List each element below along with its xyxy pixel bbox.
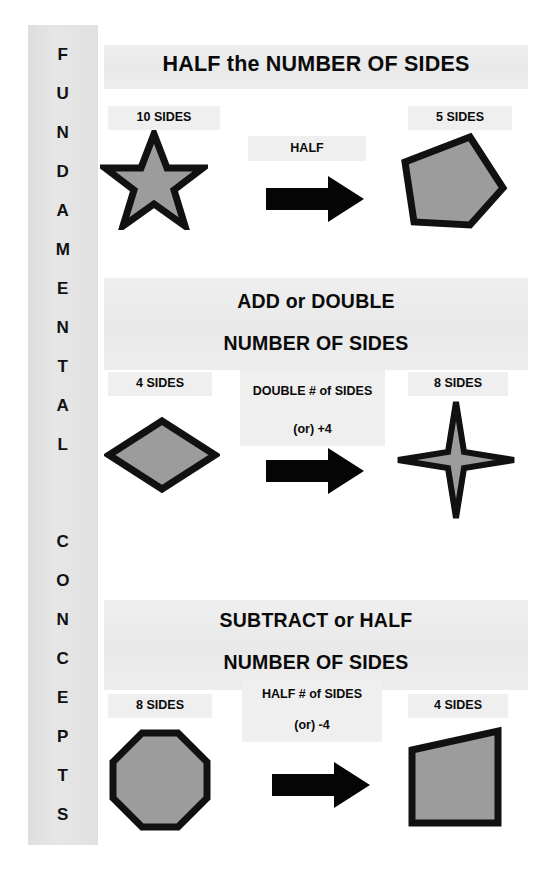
section-2-left-label: 4 SIDES: [108, 372, 212, 396]
shape-ten-point-star: [100, 130, 208, 230]
section-2-heading-line-1: ADD or DOUBLE: [104, 290, 528, 313]
section-2-operation-sub: (or) +4: [240, 414, 385, 446]
section-3-operation-label: HALF # of SIDES: [242, 680, 382, 710]
section-3-left-label: 8 SIDES: [108, 694, 212, 718]
section-2-operation-label: DOUBLE # of SIDES: [240, 370, 385, 414]
section-2-heading-line-2: NUMBER OF SIDES: [104, 332, 528, 355]
sidebar-letter: N: [57, 124, 70, 163]
right-arrow-icon: [272, 762, 370, 808]
sidebar-letter: L: [58, 436, 69, 475]
sidebar-letter: A: [57, 397, 70, 436]
right-arrow-icon: [266, 176, 364, 222]
section-3-heading-line-2: NUMBER OF SIDES: [104, 651, 528, 674]
shape-four-point-star: [394, 398, 518, 522]
sidebar-letter: T: [58, 358, 69, 397]
sidebar-letter: E: [57, 689, 69, 728]
shape-rhombus: [104, 416, 220, 494]
right-arrow-icon: [266, 448, 364, 494]
sidebar-letter: U: [57, 85, 70, 124]
shape-octagon: [108, 728, 212, 832]
sidebar-vertical-title: F U N D A M E N T A L C O N C E P T S: [28, 25, 98, 845]
shape-trapezoid: [406, 726, 508, 830]
section-3-operation-sub: (or) -4: [242, 710, 382, 742]
sidebar-letter: T: [58, 767, 69, 806]
sidebar-letter: D: [57, 163, 70, 202]
section-2-right-label: 8 SIDES: [408, 372, 508, 396]
section-1-heading: HALF the NUMBER OF SIDES: [104, 52, 528, 77]
sidebar-letter: F: [58, 46, 69, 85]
sidebar-letter: N: [57, 319, 70, 358]
section-1-left-label: 10 SIDES: [108, 106, 220, 130]
section-3-right-label: 4 SIDES: [408, 694, 508, 718]
sidebar-letter: N: [57, 611, 70, 650]
sidebar-letter: C: [57, 533, 70, 572]
sidebar-letter: E: [57, 280, 69, 319]
sidebar-letter: A: [57, 202, 70, 241]
shape-pentagon: [398, 132, 508, 230]
sidebar-letter: P: [57, 728, 69, 767]
section-1-operation-label: HALF: [248, 136, 366, 161]
sidebar-letter: O: [56, 572, 70, 611]
sidebar-letter: S: [57, 806, 69, 845]
sidebar-letter: C: [57, 650, 70, 689]
section-1-right-label: 5 SIDES: [408, 106, 512, 130]
section-3-heading-line-1: SUBTRACT or HALF: [104, 609, 528, 632]
sidebar-letter: M: [56, 241, 71, 280]
